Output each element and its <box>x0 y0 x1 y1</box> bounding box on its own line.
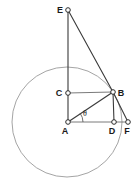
vertex-dot-F <box>126 120 131 125</box>
angle-label-theta: θ <box>83 109 87 118</box>
vertex-dot-B <box>111 90 116 95</box>
vertex-dot-E <box>66 8 71 13</box>
point-label-B: B <box>118 88 125 98</box>
vertex-dot-C <box>66 91 71 96</box>
point-label-E: E <box>57 5 63 15</box>
vertex-dot-A <box>66 120 71 125</box>
segment-BD <box>113 92 114 122</box>
segment-AB <box>68 92 113 122</box>
geometry-figure: E C B A D F θ <box>0 0 137 182</box>
point-label-A: A <box>62 126 69 136</box>
segment-CB <box>68 92 113 93</box>
geometry-canvas: E C B A D F θ <box>0 0 137 182</box>
point-label-D: D <box>109 126 116 136</box>
segment-EB <box>68 10 113 92</box>
point-label-F: F <box>124 126 130 136</box>
vertex-dot-D <box>112 120 117 125</box>
point-label-C: C <box>56 88 63 98</box>
